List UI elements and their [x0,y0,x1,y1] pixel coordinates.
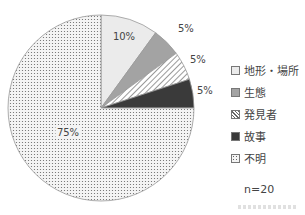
source-credit [238,205,298,209]
legend-label: 生態 [244,84,266,100]
slice-label-2: 5% [190,54,206,65]
legend-item-ecology: 生態 [231,81,299,103]
swatch-dark [231,132,240,141]
legend-label: 発見者 [244,106,277,122]
swatch-dotted [231,154,240,163]
legend-item-unknown: 不明 [231,147,299,169]
legend-item-legend-story: 故事 [231,125,299,147]
legend-item-terrain: 地形・場所 [231,59,299,81]
sample-size: n=20 [244,183,274,196]
slice-label-4: 75% [57,127,79,138]
legend: 地形・場所 生態 発見者 故事 不明 [231,59,299,169]
legend-label: 地形・場所 [244,62,299,78]
legend-label: 故事 [244,128,266,144]
slice-label-3: 5% [197,85,213,96]
slice-label-0: 10% [113,31,135,42]
swatch-hatched [231,110,240,119]
legend-item-discoverer: 発見者 [231,103,299,125]
pie-chart: 10%5%5%5%75% [0,0,230,215]
swatch-medium-gray [231,88,240,97]
swatch-light-gray [231,66,240,75]
legend-label: 不明 [244,150,266,166]
slice-label-1: 5% [178,23,194,34]
